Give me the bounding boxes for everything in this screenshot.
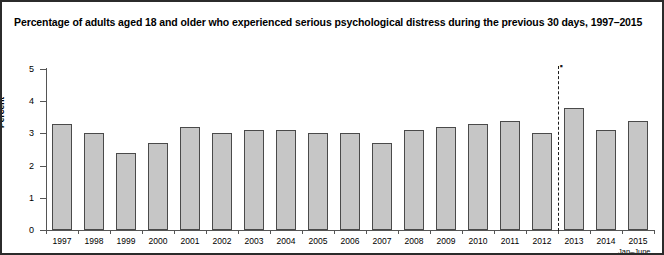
x-tick-mark <box>366 230 367 234</box>
bar-group[interactable] <box>532 69 552 230</box>
bar-2010[interactable] <box>468 124 488 230</box>
bar-group[interactable] <box>148 69 168 230</box>
bar-group[interactable] <box>468 69 488 230</box>
bar-2009[interactable] <box>436 127 456 230</box>
x-tick-mark <box>206 230 207 234</box>
x-tick-mark <box>78 230 79 234</box>
x-tick-label-2002: 2002 <box>206 236 238 246</box>
bar-2000[interactable] <box>148 143 168 230</box>
x-tick-label-1999: 1999 <box>110 236 142 246</box>
footnote-jan-june: Jan–June <box>618 247 651 255</box>
x-tick-mark <box>46 230 47 234</box>
bar-2004[interactable] <box>276 130 296 230</box>
bar-2012[interactable] <box>532 133 552 230</box>
bar-group[interactable] <box>340 69 360 230</box>
bar-group[interactable] <box>52 69 72 230</box>
x-tick-mark <box>334 230 335 234</box>
bar-group[interactable] <box>436 69 456 230</box>
bar-group[interactable] <box>308 69 328 230</box>
x-tick-mark <box>622 230 623 234</box>
y-tick-label: 5 <box>6 64 34 74</box>
y-tick-label: 1 <box>6 193 34 203</box>
bar-group[interactable] <box>116 69 136 230</box>
x-tick-mark <box>430 230 431 234</box>
x-tick-mark <box>398 230 399 234</box>
bar-group[interactable] <box>372 69 392 230</box>
y-tick-label: 0 <box>6 225 34 235</box>
x-tick-label-2010: 2010 <box>462 236 494 246</box>
bar-2015[interactable] <box>628 121 648 230</box>
bar-group[interactable] <box>180 69 200 230</box>
x-tick-label-2004: 2004 <box>270 236 302 246</box>
bar-2001[interactable] <box>180 127 200 230</box>
bar-group[interactable] <box>244 69 264 230</box>
x-tick-mark <box>590 230 591 234</box>
x-tick-label-2012: 2012 <box>526 236 558 246</box>
x-tick-mark <box>238 230 239 234</box>
x-tick-label-2013: 2013 <box>558 236 590 246</box>
plot-area <box>46 69 654 230</box>
x-axis-line <box>46 230 654 231</box>
bar-2014[interactable] <box>596 130 616 230</box>
bar-2006[interactable] <box>340 133 360 230</box>
x-tick-label-2001: 2001 <box>174 236 206 246</box>
bar-1997[interactable] <box>52 124 72 230</box>
x-tick-mark <box>174 230 175 234</box>
y-tick-label: 2 <box>6 161 34 171</box>
x-tick-label-2007: 2007 <box>366 236 398 246</box>
bar-2008[interactable] <box>404 130 424 230</box>
bar-2011[interactable] <box>500 121 520 230</box>
bar-group[interactable] <box>404 69 424 230</box>
x-tick-mark <box>110 230 111 234</box>
x-tick-label-1997: 1997 <box>46 236 78 246</box>
x-tick-mark <box>494 230 495 234</box>
chart-title: Percentage of adults aged 18 and older w… <box>14 16 650 29</box>
bar-2003[interactable] <box>244 130 264 230</box>
bar-group[interactable] <box>276 69 296 230</box>
x-tick-label-2006: 2006 <box>334 236 366 246</box>
x-tick-mark <box>526 230 527 234</box>
x-tick-label-2011: 2011 <box>494 236 526 246</box>
x-tick-mark <box>270 230 271 234</box>
x-tick-label-1998: 1998 <box>78 236 110 246</box>
bar-2002[interactable] <box>212 133 232 230</box>
x-tick-label-2015: 2015 <box>622 236 654 246</box>
x-tick-mark <box>654 230 655 234</box>
x-tick-label-2000: 2000 <box>142 236 174 246</box>
bar-2005[interactable] <box>308 133 328 230</box>
bar-group[interactable] <box>564 69 584 230</box>
x-tick-mark <box>462 230 463 234</box>
bar-group[interactable] <box>628 69 648 230</box>
x-tick-label-2005: 2005 <box>302 236 334 246</box>
chart-figure: Percentage of adults aged 18 and older w… <box>0 0 664 255</box>
bar-2007[interactable] <box>372 143 392 230</box>
break-line <box>558 66 559 231</box>
x-tick-mark <box>142 230 143 234</box>
bar-1998[interactable] <box>84 133 104 230</box>
bar-group[interactable] <box>212 69 232 230</box>
y-tick-label: 3 <box>6 128 34 138</box>
bar-group[interactable] <box>596 69 616 230</box>
x-tick-label-2003: 2003 <box>238 236 270 246</box>
x-tick-label-2008: 2008 <box>398 236 430 246</box>
y-tick-label: 4 <box>6 96 34 106</box>
x-tick-label-2014: 2014 <box>590 236 622 246</box>
x-tick-label-2009: 2009 <box>430 236 462 246</box>
bar-2013[interactable] <box>564 108 584 230</box>
break-marker-icon: ▪ <box>560 62 563 71</box>
bar-group[interactable] <box>84 69 104 230</box>
x-tick-mark <box>302 230 303 234</box>
bar-1999[interactable] <box>116 153 136 230</box>
bar-group[interactable] <box>500 69 520 230</box>
